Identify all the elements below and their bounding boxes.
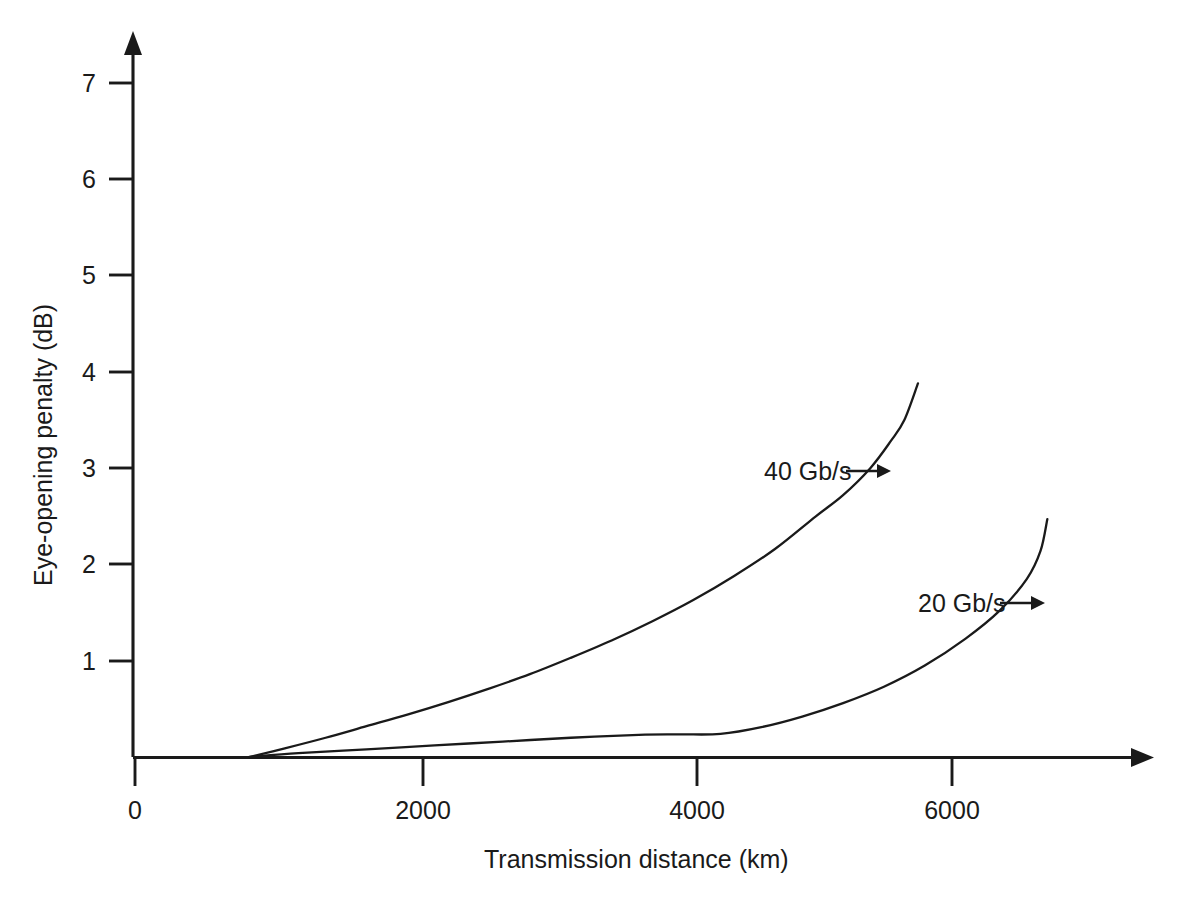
series-annotation-20gbs: 20 Gb/s [918,591,1006,616]
y-axis-arrowhead [124,31,142,55]
y-tick-label-2: 2 [52,552,96,577]
x-tick-label-0: 0 [75,798,195,823]
x-axis-title: Transmission distance (km) [484,847,789,872]
plot-area [0,0,1180,903]
x-tick-label-2000: 2000 [363,798,483,823]
y-tick-label-5: 5 [52,263,96,288]
y-tick-label-3: 3 [52,456,96,481]
y-tick-label-6: 6 [52,167,96,192]
y-tick-label-1: 1 [52,649,96,674]
chart-figure: 7 6 5 4 3 2 1 0 2000 4000 6000 Eye-openi… [0,0,1180,903]
x-tick-label-6000: 6000 [892,798,1012,823]
x-axis-arrowhead [1131,748,1154,767]
annotation-arrowhead-20gbs [1031,596,1045,610]
x-tick-label-4000: 4000 [637,798,757,823]
annotation-arrowhead-40gbs [877,464,891,478]
y-tick-label-7: 7 [52,71,96,96]
y-axis-title: Eye-opening penalty (dB) [31,304,56,586]
y-tick-label-4: 4 [52,360,96,385]
series-line-40gbs [249,383,918,757]
series-annotation-40gbs: 40 Gb/s [764,459,852,484]
series-line-20gbs [249,519,1047,757]
